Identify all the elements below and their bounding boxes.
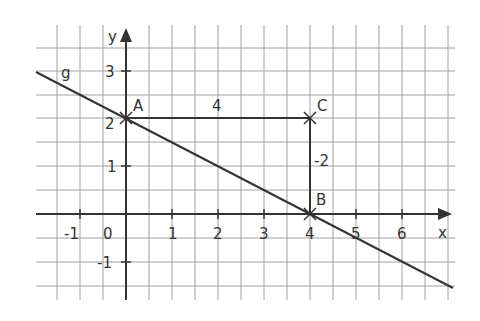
x-axis-label: x: [438, 224, 447, 242]
x-tick-label: 5: [351, 225, 361, 243]
x-axis-arrow-icon: [438, 208, 452, 220]
y-tick-label: 2: [105, 115, 115, 133]
segment-CB-length-label: -2: [314, 152, 329, 170]
segment-AC-length-label: 4: [212, 97, 222, 115]
point-A-label: A: [133, 97, 144, 115]
y-axis-arrow-icon: [120, 28, 132, 42]
y-tick-label: 1: [107, 158, 117, 176]
x-tick-label: 6: [397, 225, 407, 243]
point-C-label: C: [317, 97, 327, 115]
coordinate-plane: y x 0 -1 1 2 3 4 5 6 3 2 1 -1 g A B C 4 …: [0, 0, 480, 321]
x-tick-label: 4: [305, 225, 315, 243]
origin-label: 0: [103, 225, 113, 243]
x-tick-label: -1: [64, 225, 79, 243]
y-tick-label: -1: [97, 254, 112, 272]
x-tick-label: 2: [213, 225, 223, 243]
x-tick-label: 1: [168, 225, 178, 243]
y-axis-label: y: [108, 28, 117, 46]
point-B-label: B: [316, 191, 326, 209]
x-tick-label: 3: [259, 225, 269, 243]
line-g-label: g: [61, 64, 71, 82]
y-tick-label: 3: [105, 63, 115, 81]
